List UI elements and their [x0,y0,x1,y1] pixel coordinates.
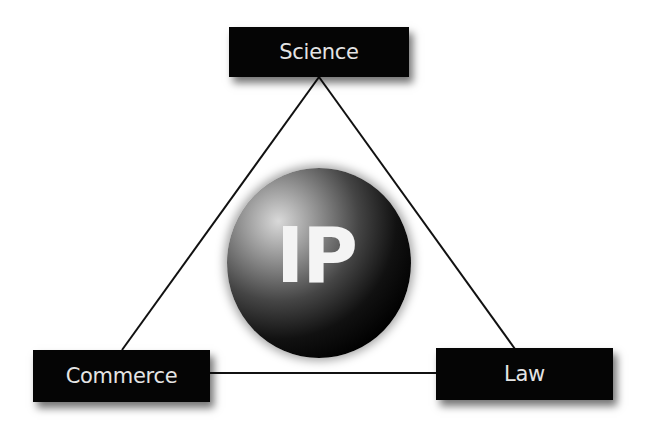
node-commerce: Commerce [33,350,210,402]
ip-sphere: IP [227,168,411,358]
node-science: Science [229,27,409,77]
node-commerce-label: Commerce [66,364,178,388]
ip-label: IP [276,218,356,294]
node-law-label: Law [504,362,545,386]
ip-triangle-diagram: IP Science Commerce Law [0,0,653,435]
node-science-label: Science [279,40,358,64]
node-law: Law [436,348,613,400]
